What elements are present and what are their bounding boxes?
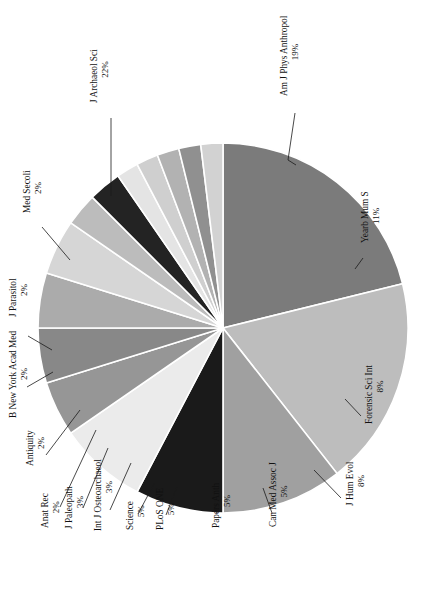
slice-label-name: Antiquity: [25, 430, 35, 466]
slice-label-percent: 2%: [19, 283, 29, 296]
slice-label-percent: 8%: [356, 475, 366, 488]
slice-label-name: PLoS ONE: [155, 488, 165, 530]
slice-label: Anat Rec2%: [40, 493, 61, 528]
slice-label-percent: 11%: [371, 207, 381, 224]
slice-label: J Parasitol2%: [8, 278, 29, 317]
slice-label-name: J Archaeol Sci: [89, 49, 99, 103]
slice-label-percent: 3%: [104, 481, 114, 494]
slice-label-percent: 19%: [290, 43, 300, 60]
slice-label-name: Anat Rec: [40, 493, 50, 528]
slice-label-percent: 5%: [279, 485, 289, 498]
slice-label-name: Am J Phys Anthropol: [279, 15, 289, 96]
slice-label-name: B New York Acad Med: [8, 331, 18, 418]
pie-chart-svg: J Archaeol Sci22%Am J Phys Anthropol19%Y…: [0, 0, 432, 605]
pie-wedge-group: [38, 143, 408, 513]
slice-label: J Hum Evol8%: [345, 461, 366, 506]
slice-label-percent: 5%: [166, 503, 176, 516]
slice-label: J Paleopath3%: [64, 486, 85, 529]
slice-label-name: Int J Osteoarchaeol: [93, 459, 103, 531]
slice-label-name: J Paleopath: [64, 486, 74, 529]
slice-label-percent: 2%: [51, 501, 61, 514]
slice-label: Med Secoli2%: [22, 170, 43, 213]
slice-label: Am J Phys Anthropol19%: [279, 15, 300, 96]
slice-label: Science5%: [125, 501, 146, 530]
slice-label-percent: 5%: [136, 505, 146, 518]
slice-label-percent: 2%: [19, 368, 29, 381]
slice-label-name: Papers Anth: [211, 482, 221, 528]
slice-label-name: Yearb Mum S: [360, 191, 370, 243]
slice-label-percent: 3%: [75, 495, 85, 508]
slice-label-percent: 2%: [33, 182, 43, 195]
slice-label-percent: 8%: [375, 380, 385, 393]
slice-label-name: Med Secoli: [22, 170, 32, 213]
pie-chart-figure: J Archaeol Sci22%Am J Phys Anthropol19%Y…: [0, 0, 432, 605]
slice-label: J Archaeol Sci22%: [89, 49, 110, 103]
slice-label-name: Science: [125, 501, 135, 530]
slice-label: Antiquity2%: [25, 430, 46, 466]
slice-label-percent: 22%: [100, 61, 110, 78]
slice-label-percent: 5%: [222, 494, 232, 507]
slice-label-name: Can Med Assoc J: [268, 462, 278, 527]
slice-label-name: J Parasitol: [8, 278, 18, 317]
slice-label-name: Forensic Sci Int: [364, 365, 374, 424]
slice-label-name: J Hum Evol: [345, 461, 355, 506]
slice-label-percent: 2%: [36, 437, 46, 450]
slice-label: B New York Acad Med2%: [8, 331, 29, 418]
